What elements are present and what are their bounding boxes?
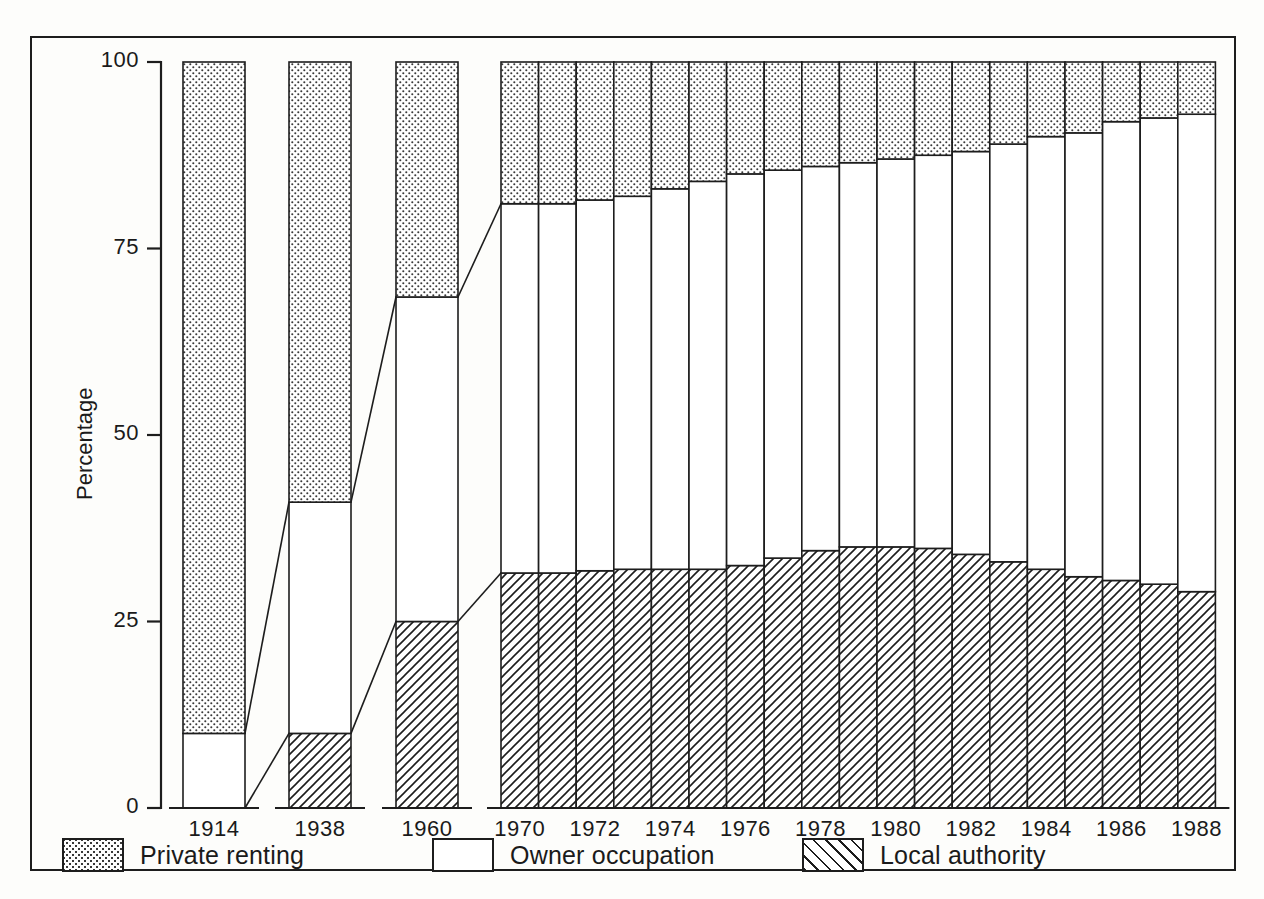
connector-line	[458, 573, 501, 621]
y-tick-label: 75	[69, 234, 139, 260]
bar-segment	[802, 62, 840, 166]
bar-segment	[1140, 62, 1178, 118]
bar-segment	[1027, 137, 1065, 570]
bar-segment	[839, 547, 877, 808]
bar-segment	[802, 166, 840, 550]
bar-segment	[651, 569, 689, 808]
y-tick-label: 100	[69, 47, 139, 73]
bar-segment	[1027, 62, 1065, 137]
bar-segment	[877, 547, 915, 808]
y-tick-label: 0	[69, 793, 139, 819]
bar-segment	[1103, 122, 1141, 581]
connector-line	[245, 733, 289, 808]
legend-label: Private renting	[140, 841, 304, 870]
stacked-bar-chart	[0, 0, 1264, 899]
bar-segment	[727, 174, 765, 566]
bar-segment	[1065, 62, 1103, 133]
bar-segment	[764, 558, 802, 808]
bar-segment	[396, 62, 458, 297]
bar-segment	[396, 297, 458, 622]
bar-segment	[727, 62, 765, 174]
bar-segment	[689, 569, 727, 808]
bar-segment	[501, 204, 539, 573]
legend-item: Private renting	[62, 838, 304, 872]
bar-segment	[183, 733, 245, 808]
bar-segment	[396, 622, 458, 809]
bar-segment	[915, 62, 953, 155]
chart-plot-area: Percentage 0255075100 191419381960197019…	[0, 0, 1264, 899]
bar-segment	[501, 573, 539, 808]
bar-segment	[990, 144, 1028, 562]
connector-line	[351, 622, 396, 734]
bar-segment	[839, 62, 877, 163]
bar-segment	[501, 62, 539, 204]
bar-segment	[802, 551, 840, 808]
figure-stage: Percentage 0255075100 191419381960197019…	[0, 0, 1264, 899]
bar-segment	[952, 62, 990, 152]
bar-segment	[727, 566, 765, 808]
bar-segment	[1065, 577, 1103, 808]
bar-segment	[1140, 584, 1178, 808]
bar-segment	[689, 181, 727, 569]
bar-segment	[764, 170, 802, 558]
bar-segment	[576, 62, 614, 200]
bar-segment	[614, 569, 652, 808]
bar-segment	[576, 571, 614, 808]
bar-segment	[539, 62, 577, 204]
legend-item: Owner occupation	[432, 838, 715, 872]
bar-segment	[877, 159, 915, 547]
bar-segment	[764, 62, 802, 170]
bar-segment	[539, 204, 577, 573]
legend-label: Local authority	[880, 841, 1046, 870]
bar-segment	[877, 62, 915, 159]
bar-segment	[1178, 592, 1216, 808]
bar-segment	[1178, 62, 1216, 114]
connector-line	[351, 297, 396, 502]
bar-segment	[915, 548, 953, 808]
bar-segment	[1140, 118, 1178, 584]
bar-segment	[1178, 114, 1216, 591]
bar-segment	[614, 196, 652, 569]
bar-segment	[289, 62, 351, 502]
chart-legend: Private rentingOwner occupationLocal aut…	[62, 838, 1212, 882]
legend-swatch-dots-icon	[62, 838, 124, 872]
bar-segment	[839, 163, 877, 547]
legend-item: Local authority	[802, 838, 1046, 872]
bar-segment	[614, 62, 652, 196]
bar-segment	[990, 62, 1028, 144]
legend-label: Owner occupation	[510, 841, 715, 870]
bar-segment	[651, 62, 689, 189]
bar-segment	[539, 573, 577, 808]
y-tick-label: 50	[69, 420, 139, 446]
y-tick-label: 25	[69, 607, 139, 633]
bar-segment	[915, 155, 953, 548]
legend-swatch-plain-icon	[432, 838, 494, 872]
bar-segment	[952, 152, 990, 555]
bar-segment	[1103, 62, 1141, 122]
bar-segment	[1065, 133, 1103, 577]
bar-segment	[990, 562, 1028, 808]
bar-segment	[651, 189, 689, 569]
bar-segment	[1103, 580, 1141, 808]
connector-line	[245, 502, 289, 733]
bar-segment	[289, 733, 351, 808]
bar-segment	[289, 502, 351, 733]
bar-segment	[183, 62, 245, 733]
bar-segment	[576, 200, 614, 571]
legend-swatch-hatch-icon	[802, 838, 864, 872]
bar-segment	[1027, 569, 1065, 808]
bar-segment	[689, 62, 727, 181]
bar-segment	[952, 554, 990, 808]
connector-line	[458, 204, 501, 297]
